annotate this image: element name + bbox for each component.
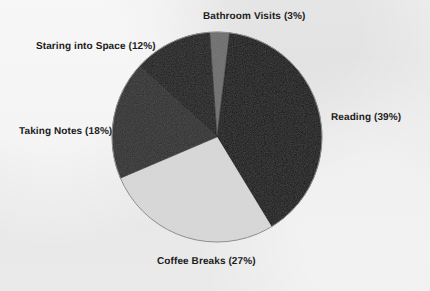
slice-label-reading: Reading (39%)	[331, 112, 401, 124]
slice-label-staring-into-space: Staring into Space (12%)	[36, 41, 156, 53]
slice-label-taking-notes: Taking Notes (18%)	[19, 126, 112, 138]
slice-label-coffee-breaks: Coffee Breaks (27%)	[157, 256, 256, 268]
pie-chart: Bathroom Visits (3%) Staring into Space …	[0, 0, 430, 291]
pie-slices	[112, 32, 322, 242]
slice-label-bathroom-visits: Bathroom Visits (3%)	[203, 11, 305, 23]
